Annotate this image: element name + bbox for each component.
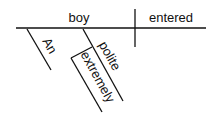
- sentence-diagram: boy entered An polite extremely: [0, 0, 213, 122]
- article-word: An: [39, 35, 60, 56]
- verb-word: entered: [149, 10, 193, 25]
- subject-word: boy: [69, 10, 90, 25]
